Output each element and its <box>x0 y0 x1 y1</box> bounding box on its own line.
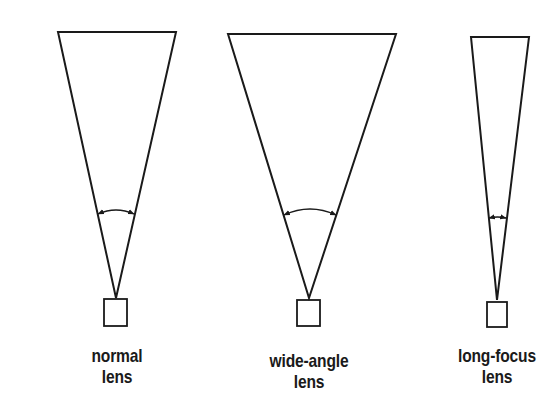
label-line-2: lens <box>444 366 550 387</box>
normal-lens-figure <box>58 32 176 326</box>
field-of-view-triangle <box>228 34 396 298</box>
camera-icon <box>487 302 507 327</box>
label-line-1: normal <box>72 345 162 366</box>
camera-icon <box>297 300 320 326</box>
camera-icon <box>104 299 127 326</box>
label-line-2: lens <box>72 366 162 387</box>
angle-of-view-arc <box>489 217 506 218</box>
label-line-1: long-focus <box>444 345 550 366</box>
normal-lens-label: normal lens <box>72 345 162 387</box>
wide-angle-lens-label: wide-angle lens <box>256 350 363 392</box>
angle-of-view-arc <box>98 210 134 214</box>
wide-angle-lens-figure <box>228 34 396 326</box>
angle-of-view-arc <box>284 209 336 215</box>
field-of-view-triangle <box>471 37 529 300</box>
long-focus-lens-figure <box>471 37 529 327</box>
field-of-view-triangle <box>58 32 176 298</box>
label-line-1: wide-angle <box>256 350 363 371</box>
long-focus-lens-label: long-focus lens <box>444 345 550 387</box>
label-line-2: lens <box>256 371 363 392</box>
